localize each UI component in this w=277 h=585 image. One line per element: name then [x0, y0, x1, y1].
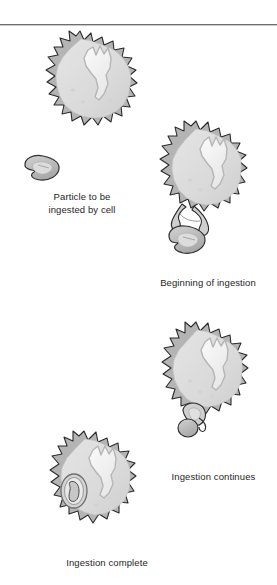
caption-stage-2: Beginning of ingestion — [139, 277, 277, 290]
cytoplasm-speckle — [188, 179, 192, 182]
cytoplasm-speckle — [210, 395, 214, 398]
particle-path — [178, 419, 198, 437]
stage-2-cell-and-particle — [148, 118, 268, 273]
cytoplasm-speckle — [108, 497, 112, 500]
phagocytosis-figure: Particle to be ingested by cell Beginnin… — [0, 0, 277, 585]
caption-stage-3: Ingestion continues — [150, 471, 277, 484]
cytoplasm-speckle — [94, 504, 98, 507]
pseudopod-inner-arc — [180, 214, 200, 221]
cytoplasm-speckle — [108, 99, 112, 102]
header-divider-shadow — [0, 25, 277, 26]
cytoplasm-speckle — [71, 88, 76, 91]
particle-path — [69, 481, 79, 501]
stage-1-particle — [16, 152, 66, 186]
stage-3-cell-and-particle — [152, 318, 270, 468]
stage-4-cell-with-vacuole — [40, 428, 158, 560]
stage-1-cell — [36, 28, 148, 150]
cytoplasm-speckle — [198, 189, 202, 192]
cytoplasm-speckle — [198, 391, 202, 394]
caption-stage-1: Particle to be ingested by cell — [16, 191, 148, 216]
caption-stage-4: Ingestion complete — [32, 557, 182, 570]
cytoplasm-speckle — [81, 101, 85, 104]
cytoplasm-speckle — [188, 380, 192, 383]
